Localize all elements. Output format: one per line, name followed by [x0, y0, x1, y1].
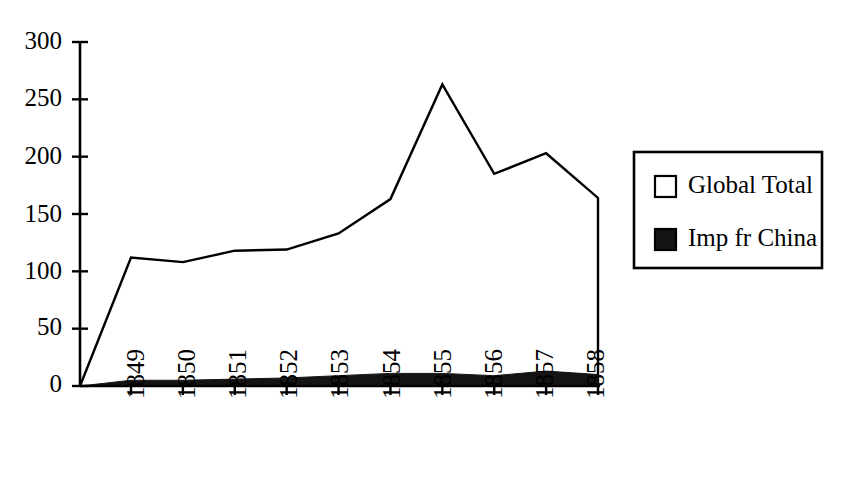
x-tick-label-1853: 1853 [326, 349, 353, 399]
y-tick-label-50: 50 [37, 313, 62, 340]
legend-swatch-filled-square-icon [655, 229, 676, 250]
x-tick-label-1852: 1852 [275, 349, 302, 399]
x-tick-label-1854: 1854 [378, 349, 405, 400]
y-tick-label-300: 300 [25, 27, 63, 54]
legend-swatch-open-square-icon [655, 176, 676, 197]
legend: Global Total Imp fr China [634, 152, 822, 268]
y-tick-label-0: 0 [50, 370, 63, 397]
x-tick-label-1855: 1855 [429, 349, 456, 399]
x-tick-label-1850: 1850 [173, 349, 200, 399]
x-tick-label-1856: 1856 [480, 349, 507, 399]
y-tick-label-100: 100 [25, 257, 63, 284]
x-tick-label-1849: 1849 [122, 349, 149, 399]
y-tick-label-150: 150 [25, 200, 63, 227]
y-tick-label-250: 250 [25, 84, 63, 111]
area-chart: 0 50 100 150 200 250 300 1849 1850 1851 … [0, 0, 848, 477]
legend-label-imp-fr-china: Imp fr China [688, 224, 817, 251]
x-tick-label-1857: 1857 [531, 349, 558, 399]
x-tick-label-1851: 1851 [224, 349, 251, 399]
legend-label-global-total: Global Total [688, 171, 813, 198]
chart-container: 0 50 100 150 200 250 300 1849 1850 1851 … [0, 0, 848, 477]
x-tick-label-1858: 1858 [582, 349, 609, 399]
y-tick-label-200: 200 [25, 142, 63, 169]
